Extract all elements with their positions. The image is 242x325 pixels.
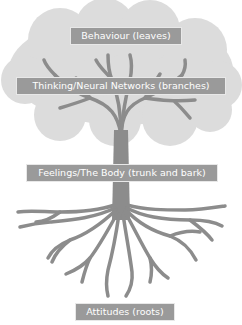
label-branches: Thinking/Neural Networks (branches) bbox=[17, 78, 225, 94]
label-leaves: Behaviour (leaves) bbox=[71, 28, 181, 44]
label-trunk: Feelings/The Body (trunk and bark) bbox=[27, 165, 217, 181]
tree-illustration bbox=[0, 0, 242, 325]
label-roots: Attitudes (roots) bbox=[76, 304, 174, 320]
